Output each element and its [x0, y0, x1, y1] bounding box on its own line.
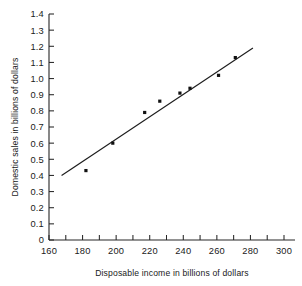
x-tick-label: 260: [209, 246, 225, 256]
x-axis-title: Disposable income in billions of dollars: [95, 268, 249, 278]
x-tick-label: 220: [142, 246, 158, 256]
data-point: [143, 111, 146, 114]
y-tick-label: 0.1: [30, 219, 44, 229]
y-tick-label: 0.7: [30, 122, 44, 132]
y-tick-label: 0: [39, 235, 44, 245]
data-point: [234, 56, 237, 59]
data-point: [84, 169, 87, 172]
data-point: [111, 142, 114, 145]
data-point: [217, 74, 220, 77]
x-axis-tick-label-group: 160180200220240260280300: [41, 246, 292, 256]
regression-line: [62, 48, 253, 176]
y-tick-label: 0.2: [30, 203, 44, 213]
y-tick-label: 1.1: [30, 58, 44, 68]
x-tick-label: 180: [75, 246, 91, 256]
y-tick-label: 1.3: [30, 26, 44, 36]
data-point: [178, 92, 181, 95]
y-axis-tick-label-group: 00.10.20.30.40.50.60.70.80.91.01.11.21.3…: [30, 9, 44, 245]
y-tick-label: 0.6: [30, 139, 44, 149]
y-tick-label: 1.0: [30, 74, 44, 84]
y-tick-label: 0.5: [30, 155, 44, 165]
data-point: [188, 87, 191, 90]
y-axis-title: Domestic sales in billions of dollars: [10, 58, 20, 197]
x-tick-label: 240: [175, 246, 191, 256]
y-tick-label: 0.3: [30, 187, 44, 197]
y-tick-label: 0.9: [30, 90, 44, 100]
y-tick-label: 1.2: [30, 42, 44, 52]
y-tick-label: 1.4: [30, 9, 44, 19]
x-tick-label: 200: [108, 246, 124, 256]
data-point: [158, 100, 161, 103]
x-tick-label: 300: [276, 246, 292, 256]
x-axis-tick-marks: [49, 235, 284, 240]
x-tick-label: 280: [242, 246, 258, 256]
scatter-plot-figure: 00.10.20.30.40.50.60.70.80.91.01.11.21.3…: [0, 0, 302, 286]
y-tick-label: 0.8: [30, 106, 44, 116]
y-tick-label: 0.4: [30, 171, 44, 181]
y-axis-tick-marks: [49, 14, 54, 240]
x-tick-label: 160: [41, 246, 57, 256]
plot-canvas: 00.10.20.30.40.50.60.70.80.91.01.11.21.3…: [0, 0, 302, 286]
